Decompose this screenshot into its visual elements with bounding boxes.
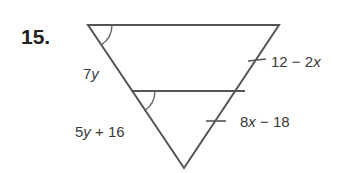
label-right-lower: 8x − 18: [240, 114, 290, 129]
label-right-upper: 12 − 2x: [271, 54, 321, 69]
label-left-upper: 7y: [83, 66, 99, 81]
angle-arc-top: [101, 25, 112, 45]
angle-arc-mid: [144, 91, 155, 111]
outer-triangle: [88, 25, 279, 168]
label-left-lower: 5y + 16: [75, 124, 125, 139]
tick-mark-upper: [248, 59, 266, 61]
problem-figure: 15. 7y 5y + 16 12 − 2x 8x − 18: [0, 0, 352, 173]
triangle-diagram: [0, 0, 352, 173]
